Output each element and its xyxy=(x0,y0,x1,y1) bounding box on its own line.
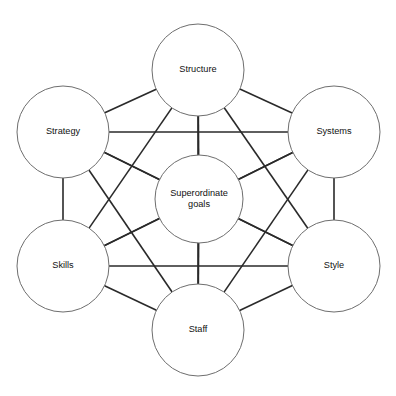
node-label-line: Style xyxy=(324,260,344,270)
node-superordinate-goals[interactable]: Superordinategoals xyxy=(155,155,243,243)
node-label-style: Style xyxy=(324,260,344,270)
node-label-line: Superordinate xyxy=(170,188,228,198)
node-staff[interactable]: Staff xyxy=(152,284,244,376)
connector-staff-to-skills xyxy=(105,286,157,311)
node-label-structure: Structure xyxy=(179,64,216,74)
node-skills[interactable]: Skills xyxy=(17,220,109,312)
node-label-systems: Systems xyxy=(316,126,352,136)
node-label-line: Staff xyxy=(189,324,208,334)
node-structure[interactable]: Structure xyxy=(152,24,244,116)
node-circles-group: StructureSystemsStyleStaffSkillsStrategy… xyxy=(17,24,380,376)
node-label-line: Strategy xyxy=(46,126,81,136)
node-systems[interactable]: Systems xyxy=(288,86,380,178)
connector-style-to-staff xyxy=(240,286,293,311)
node-style[interactable]: Style xyxy=(288,220,380,312)
node-label-skills: Skills xyxy=(52,260,74,270)
node-label-staff: Staff xyxy=(189,324,208,334)
node-label-strategy: Strategy xyxy=(46,126,81,136)
connector-structure-to-systems xyxy=(240,89,292,113)
node-strategy[interactable]: Strategy xyxy=(17,86,109,178)
node-label-line: goals xyxy=(188,199,210,209)
connector-strategy-to-structure xyxy=(105,89,156,113)
node-label-line: Systems xyxy=(316,126,352,136)
seven-s-framework-diagram: StructureSystemsStyleStaffSkillsStrategy… xyxy=(0,0,396,396)
node-label-line: Skills xyxy=(52,260,74,270)
node-label-line: Structure xyxy=(179,64,216,74)
diagram-canvas: StructureSystemsStyleStaffSkillsStrategy… xyxy=(0,0,396,396)
